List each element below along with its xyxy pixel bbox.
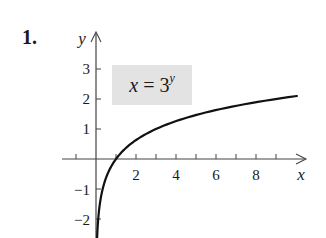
equation-operator: = bbox=[143, 74, 154, 96]
x-tick-label-4: 4 bbox=[172, 167, 180, 183]
equation-base: 3 bbox=[159, 74, 169, 96]
y-tick-label-1: 1 bbox=[83, 121, 91, 137]
y-tick-label-neg1: −1 bbox=[74, 182, 90, 198]
equation-label: x = 3y bbox=[112, 73, 192, 97]
y-tick-label-neg2: −2 bbox=[74, 212, 90, 228]
x-tick-label-2: 2 bbox=[132, 167, 140, 183]
x-tick-label-6: 6 bbox=[212, 167, 220, 183]
y-axis-label: y bbox=[76, 29, 86, 48]
graph-figure: 1. 2 4 6 8 3 2 1 −1 −2 x y x = 3y bbox=[0, 0, 326, 238]
plot-area: 2 4 6 8 3 2 1 −1 −2 x y bbox=[0, 0, 326, 238]
x-axis-label: x bbox=[296, 165, 305, 184]
equation-exponent: y bbox=[169, 71, 174, 85]
equation-label-box: x = 3y bbox=[112, 65, 192, 105]
equation-lhs: x bbox=[129, 74, 138, 96]
x-ticks bbox=[76, 154, 276, 159]
y-tick-label-2: 2 bbox=[83, 91, 91, 107]
y-tick-label-3: 3 bbox=[83, 61, 91, 77]
curve-x-equals-3-to-y bbox=[97, 96, 297, 238]
x-tick-label-8: 8 bbox=[252, 167, 260, 183]
